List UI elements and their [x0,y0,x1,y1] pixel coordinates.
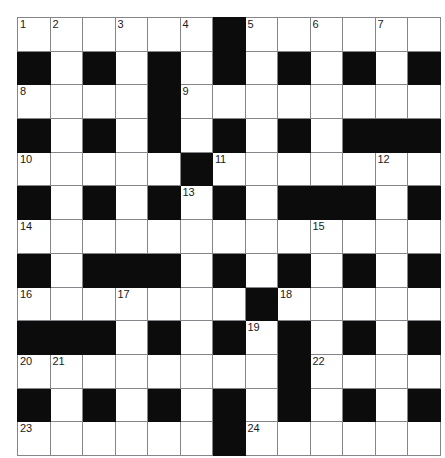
open-square[interactable] [375,321,408,355]
open-square[interactable] [148,287,181,321]
open-square[interactable] [310,287,343,321]
open-square[interactable]: 16 [18,287,51,321]
open-square[interactable] [408,152,441,186]
open-square[interactable]: 12 [375,152,408,186]
open-square[interactable] [50,152,83,186]
open-square[interactable]: 14 [18,220,51,254]
open-square[interactable] [213,220,246,254]
open-square[interactable] [278,18,311,52]
open-square[interactable]: 22 [310,354,343,388]
open-square[interactable]: 20 [18,354,51,388]
open-square[interactable]: 24 [245,422,278,456]
open-square[interactable] [115,422,148,456]
open-square[interactable] [408,354,441,388]
open-square[interactable] [180,287,213,321]
open-square[interactable] [310,253,343,287]
open-square[interactable]: 17 [115,287,148,321]
open-square[interactable] [278,152,311,186]
open-square[interactable] [245,186,278,220]
open-square[interactable] [408,220,441,254]
open-square[interactable]: 15 [310,220,343,254]
open-square[interactable]: 5 [245,18,278,52]
open-square[interactable] [245,253,278,287]
open-square[interactable]: 18 [278,287,311,321]
open-square[interactable] [245,119,278,153]
open-square[interactable] [245,220,278,254]
open-square[interactable] [83,220,116,254]
open-square[interactable] [375,354,408,388]
open-square[interactable] [213,85,246,119]
open-square[interactable] [278,422,311,456]
open-square[interactable] [50,422,83,456]
open-square[interactable] [115,85,148,119]
open-square[interactable] [115,354,148,388]
open-square[interactable] [375,220,408,254]
open-square[interactable] [343,287,376,321]
open-square[interactable]: 23 [18,422,51,456]
open-square[interactable] [115,220,148,254]
open-square[interactable] [180,220,213,254]
open-square[interactable] [148,220,181,254]
open-square[interactable] [375,253,408,287]
crossword-grid[interactable]: 123456789101112131415161718192021222324 [17,17,441,456]
open-square[interactable]: 7 [375,18,408,52]
open-square[interactable] [180,119,213,153]
open-square[interactable] [408,18,441,52]
open-square[interactable]: 1 [18,18,51,52]
open-square[interactable]: 2 [50,18,83,52]
open-square[interactable] [180,422,213,456]
open-square[interactable] [375,287,408,321]
open-square[interactable] [408,287,441,321]
open-square[interactable] [245,85,278,119]
open-square[interactable] [310,422,343,456]
open-square[interactable] [148,18,181,52]
open-square[interactable] [115,321,148,355]
open-square[interactable] [115,388,148,422]
open-square[interactable]: 19 [245,321,278,355]
open-square[interactable] [50,51,83,85]
open-square[interactable] [148,354,181,388]
open-square[interactable]: 3 [115,18,148,52]
open-square[interactable]: 4 [180,18,213,52]
open-square[interactable]: 6 [310,18,343,52]
open-square[interactable] [180,388,213,422]
open-square[interactable] [50,85,83,119]
open-square[interactable]: 9 [180,85,213,119]
open-square[interactable] [180,253,213,287]
open-square[interactable]: 11 [213,152,246,186]
open-square[interactable] [83,85,116,119]
open-square[interactable] [83,354,116,388]
open-square[interactable] [50,253,83,287]
open-square[interactable] [375,422,408,456]
open-square[interactable]: 10 [18,152,51,186]
open-square[interactable] [310,321,343,355]
open-square[interactable] [83,287,116,321]
open-square[interactable] [50,186,83,220]
open-square[interactable] [50,287,83,321]
open-square[interactable] [310,388,343,422]
open-square[interactable] [213,287,246,321]
open-square[interactable] [180,321,213,355]
open-square[interactable] [310,51,343,85]
open-square[interactable] [343,354,376,388]
open-square[interactable] [278,220,311,254]
open-square[interactable] [50,220,83,254]
open-square[interactable] [310,152,343,186]
open-square[interactable] [343,85,376,119]
open-square[interactable] [245,354,278,388]
open-square[interactable] [343,152,376,186]
open-square[interactable] [83,422,116,456]
open-square[interactable] [343,18,376,52]
open-square[interactable] [83,152,116,186]
open-square[interactable] [50,388,83,422]
open-square[interactable] [83,18,116,52]
open-square[interactable] [115,51,148,85]
open-square[interactable] [310,119,343,153]
open-square[interactable] [375,51,408,85]
open-square[interactable]: 21 [50,354,83,388]
open-square[interactable] [213,354,246,388]
open-square[interactable] [278,85,311,119]
open-square[interactable] [180,51,213,85]
open-square[interactable] [408,422,441,456]
open-square[interactable] [245,388,278,422]
